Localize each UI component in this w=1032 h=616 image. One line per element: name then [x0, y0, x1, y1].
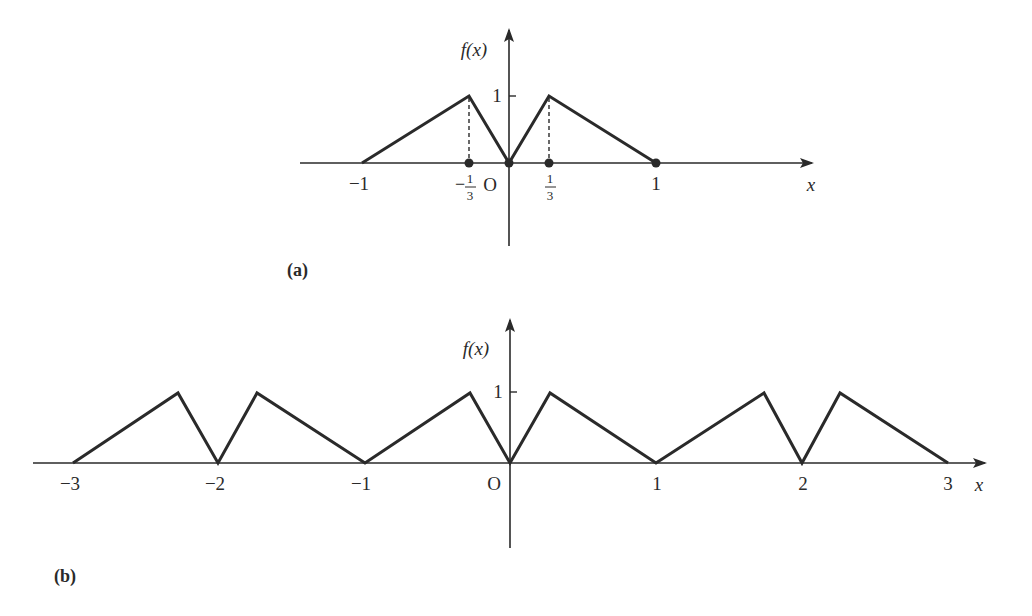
x-tick-label-pos-third-den: 3: [547, 188, 554, 203]
x-tick-label-neg-third-num: 1: [467, 171, 474, 186]
x-tick-label-2-b: 2: [798, 473, 808, 494]
point-marker: [652, 159, 661, 168]
origin-label-a: O: [483, 174, 497, 195]
x-tick-label-1-b: 1: [652, 473, 662, 494]
x-tick-label-neg-third-sign: −: [455, 174, 465, 194]
chart-a: f(x) 1 −1 − 1 3 O 1 3 1 x (a): [287, 30, 816, 281]
x-tick-label-neg1-b: −1: [351, 473, 371, 494]
x-tick-label-neg2-b: −2: [205, 473, 225, 494]
x-tick-label-neg3-b: −3: [60, 473, 80, 494]
x-axis-label-a: x: [806, 174, 816, 195]
point-marker: [545, 159, 554, 168]
point-marker: [505, 159, 514, 168]
figure: f(x) 1 −1 − 1 3 O 1 3 1 x (a) f(x) 1 −3 …: [0, 0, 1032, 616]
panel-label-b: (b): [54, 566, 76, 587]
y-tick-label-1-a: 1: [492, 85, 502, 106]
y-axis-label-b: f(x): [463, 338, 489, 360]
point-marker: [465, 159, 474, 168]
y-axis-label-a: f(x): [461, 39, 487, 61]
x-axis-label-b: x: [974, 474, 984, 495]
x-tick-label-pos-third-num: 1: [547, 171, 554, 186]
origin-label-b: O: [487, 473, 501, 494]
x-tick-label-1-a: 1: [651, 173, 661, 194]
x-tick-label-3-b: 3: [943, 473, 953, 494]
x-tick-label-neg1-a: −1: [349, 173, 369, 194]
x-tick-label-neg-third-den: 3: [467, 188, 474, 203]
chart-b: f(x) 1 −3 −2 −1 O 1 2 3 x (b): [33, 320, 985, 587]
panel-label-a: (a): [287, 260, 308, 281]
y-tick-label-1-b: 1: [493, 381, 503, 402]
